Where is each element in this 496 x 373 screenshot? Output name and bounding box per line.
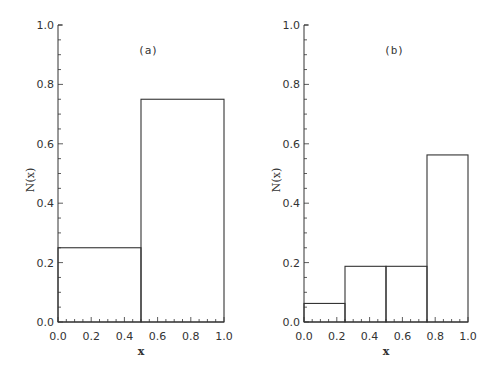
figure: 0.00.20.40.60.81.00.00.20.40.60.81.0(a)x… (0, 0, 496, 373)
histogram-bar (304, 303, 345, 322)
x-tick-label: 0.8 (426, 330, 444, 343)
x-axis-label: x (383, 345, 390, 358)
y-axis-label: N(x) (270, 168, 283, 192)
x-tick-label: 1.0 (459, 330, 477, 343)
y-axis-label: N(x) (24, 168, 37, 192)
x-tick-label: 0.8 (182, 330, 200, 343)
histogram-bar (345, 266, 386, 322)
panel-label: (a) (138, 44, 158, 57)
histogram-bar (427, 155, 468, 322)
y-tick-label: 1.0 (37, 19, 55, 32)
y-tick-label: 0.2 (37, 257, 55, 270)
panel-label: (b) (384, 44, 404, 57)
y-tick-label: 0.0 (37, 316, 55, 329)
y-tick-label: 0.4 (283, 197, 301, 210)
y-tick-label: 0.6 (37, 138, 55, 151)
panel-a: 0.00.20.40.60.81.00.00.20.40.60.81.0(a)x… (24, 19, 233, 358)
x-tick-label: 0.4 (116, 330, 134, 343)
y-tick-label: 1.0 (283, 19, 301, 32)
histogram-bar (386, 266, 427, 322)
x-tick-label: 0.4 (361, 330, 379, 343)
x-tick-label: 1.0 (215, 330, 233, 343)
x-tick-label: 0.6 (394, 330, 412, 343)
histogram-bar (141, 99, 224, 322)
x-tick-label: 0.2 (328, 330, 346, 343)
histogram-bar (58, 248, 141, 322)
y-tick-label: 0.0 (283, 316, 301, 329)
y-tick-label: 0.8 (37, 78, 55, 91)
panel-b: 0.00.20.40.60.81.00.00.20.40.60.81.0(b)x… (270, 19, 477, 358)
y-tick-label: 0.6 (283, 138, 301, 151)
x-tick-label: 0.0 (49, 330, 67, 343)
y-tick-label: 0.8 (283, 78, 301, 91)
x-tick-label: 0.2 (82, 330, 100, 343)
y-tick-label: 0.4 (37, 197, 55, 210)
x-tick-label: 0.6 (149, 330, 167, 343)
x-tick-label: 0.0 (295, 330, 313, 343)
x-axis-label: x (138, 345, 145, 358)
y-tick-label: 0.2 (283, 257, 301, 270)
